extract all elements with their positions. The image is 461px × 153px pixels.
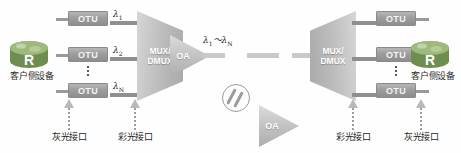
callout-stem bbox=[352, 108, 354, 130]
callout-arrow-up-icon bbox=[348, 99, 358, 108]
right-otu-2-label: OTU bbox=[386, 50, 406, 60]
lambda-index-n: N bbox=[119, 86, 124, 93]
span-lambda-range: λ1～λN bbox=[203, 33, 233, 47]
callout-stem bbox=[134, 108, 136, 130]
left-lambda-n: λN bbox=[113, 81, 124, 93]
left-oa-label: OA bbox=[176, 51, 190, 61]
span-lambda-tilde: ～ bbox=[213, 35, 222, 45]
callout-arrow-up-icon bbox=[416, 99, 426, 108]
right-optical-amplifier: OA bbox=[259, 105, 299, 147]
right-client-device-label: 客户侧设备 bbox=[411, 69, 455, 82]
span-wire-left bbox=[203, 53, 225, 58]
left-lambda-1: λ1 bbox=[113, 9, 123, 21]
left-access-wire-1 bbox=[56, 18, 68, 21]
wdm-system-diagram: R 客户侧设备 OTU λ1 OTU λ2 OTU λN MUX/ DMUX bbox=[0, 0, 461, 153]
right-mux-line1: MUX/ bbox=[320, 46, 345, 56]
left-otu-2-label: OTU bbox=[78, 50, 98, 60]
callout-stem bbox=[420, 108, 422, 130]
right-mux-line2: DMUX bbox=[320, 56, 345, 66]
callout-arrow-up-icon bbox=[64, 99, 74, 108]
left-colored-wire-3 bbox=[110, 93, 140, 97]
router-icon: R bbox=[8, 40, 50, 70]
span-lambda-index-2: N bbox=[227, 40, 232, 47]
callout-stem bbox=[68, 108, 70, 130]
left-access-wire-3 bbox=[56, 90, 68, 93]
callout-right-colored-label: 彩光接口 bbox=[336, 130, 371, 143]
left-mux-line2: DMUX bbox=[147, 56, 172, 66]
left-otu-3: OTU bbox=[68, 83, 108, 98]
fiber-spool-icon bbox=[222, 84, 250, 112]
left-mux-line1: MUX/ bbox=[147, 46, 172, 56]
right-colored-wire-2 bbox=[352, 57, 378, 61]
callout-arrow-up-icon bbox=[130, 99, 140, 108]
callout-left-colored-interface: 彩光接口 bbox=[118, 99, 153, 143]
lambda-index-1: 1 bbox=[119, 14, 123, 21]
left-lambda-2: λ2 bbox=[113, 45, 123, 57]
span-wire-right bbox=[247, 53, 279, 58]
right-client-device: R 客户侧设备 bbox=[409, 40, 457, 84]
right-otu-ellipsis bbox=[395, 66, 397, 76]
right-access-wire-1 bbox=[416, 18, 429, 21]
right-access-wire-3 bbox=[416, 90, 429, 93]
callout-right-grey-label: 灰光接口 bbox=[404, 130, 439, 143]
right-colored-wire-1 bbox=[352, 21, 378, 25]
svg-text:R: R bbox=[24, 52, 34, 68]
callout-left-grey-interface: 灰光接口 bbox=[52, 99, 87, 143]
right-oa-label: OA bbox=[265, 121, 279, 131]
right-mux-dmux: MUX/ DMUX bbox=[310, 11, 356, 101]
lambda-index-2: 2 bbox=[119, 50, 123, 57]
right-colored-wire-3 bbox=[352, 93, 378, 97]
callout-right-grey-interface: 灰光接口 bbox=[404, 99, 439, 143]
left-otu-ellipsis bbox=[87, 66, 89, 76]
left-client-device: R 客户侧设备 bbox=[8, 40, 56, 84]
callout-left-colored-label: 彩光接口 bbox=[118, 130, 153, 143]
right-otu-1: OTU bbox=[376, 11, 416, 26]
left-otu-1-label: OTU bbox=[78, 14, 98, 24]
left-otu-2: OTU bbox=[68, 47, 108, 62]
left-colored-wire-1 bbox=[110, 21, 140, 25]
right-otu-1-label: OTU bbox=[386, 14, 406, 24]
right-otu-3-label: OTU bbox=[386, 86, 406, 96]
callout-right-colored-interface: 彩光接口 bbox=[336, 99, 371, 143]
left-otu-3-label: OTU bbox=[78, 86, 98, 96]
left-access-wire-2 bbox=[56, 54, 68, 57]
right-otu-3: OTU bbox=[376, 83, 416, 98]
left-otu-1: OTU bbox=[68, 11, 108, 26]
left-colored-wire-2 bbox=[110, 57, 140, 61]
left-client-device-label: 客户侧设备 bbox=[10, 69, 54, 82]
router-icon: R bbox=[409, 40, 451, 70]
callout-left-grey-label: 灰光接口 bbox=[52, 130, 87, 143]
svg-text:R: R bbox=[425, 52, 435, 68]
